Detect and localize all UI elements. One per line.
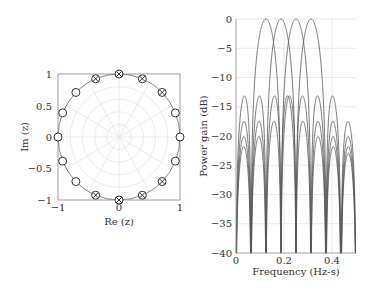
tick-labels: 0−5−10−15−20−25−30−35−4000.20.4 [211, 14, 340, 267]
figure: 1 0.5 0 −0.5 −1 −1 0 1 Re (z) Im (z) 0−5… [0, 0, 375, 294]
ytick-0: 0 [46, 132, 52, 143]
zero-marker [72, 178, 80, 186]
ytick-label: −30 [211, 189, 232, 200]
zero-marker [176, 133, 184, 141]
ytick-neg0.5: −0.5 [28, 163, 52, 174]
ytick-label: −15 [211, 101, 232, 112]
y-axis-label: Power gain (dB) [198, 95, 209, 177]
ytick-0.5: 0.5 [36, 101, 52, 112]
xtick-1: 1 [177, 202, 183, 213]
zero-marker [54, 133, 62, 141]
ytick-label: −10 [211, 72, 232, 83]
ytick-label: −20 [211, 131, 232, 142]
zero-marker [59, 157, 67, 165]
power-gain-plot: 0−5−10−15−20−25−30−35−4000.20.4 Frequenc… [198, 14, 356, 278]
xtick-0: 0 [116, 202, 122, 213]
ytick-1: 1 [46, 69, 52, 80]
zero-marker [171, 157, 179, 165]
ytick-label: 0 [226, 14, 232, 25]
x-axis-label: Re (z) [104, 216, 134, 227]
ytick-label: −25 [211, 160, 232, 171]
y-axis-label: Im (z) [19, 122, 30, 152]
xtick-label: 0.2 [276, 255, 292, 266]
ytick-label: −5 [217, 43, 232, 54]
pole-zero-plot: 1 0.5 0 −0.5 −1 −1 0 1 Re (z) Im (z) [19, 69, 184, 227]
xtick-label: 0.4 [324, 255, 340, 266]
zero-marker [59, 109, 67, 117]
zero-marker [171, 109, 179, 117]
ytick-label: −35 [211, 218, 232, 229]
xtick-label: 0 [233, 255, 239, 266]
zero-marker [72, 88, 80, 96]
x-axis-label: Frequency (Hz-s) [252, 266, 340, 277]
ytick-label: −40 [211, 248, 232, 259]
xtick-neg1: −1 [51, 202, 66, 213]
